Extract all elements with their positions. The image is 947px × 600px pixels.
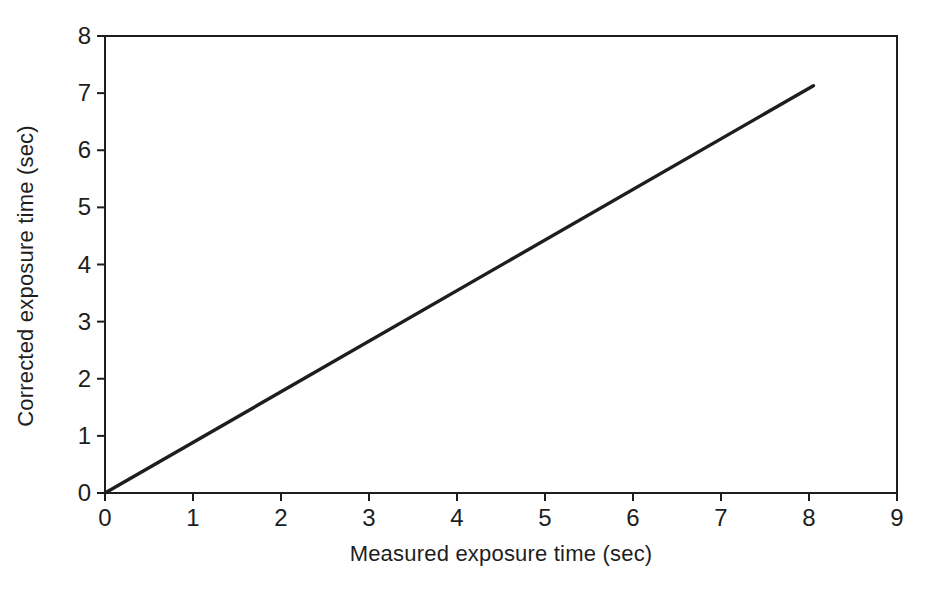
x-tick-label: 1 xyxy=(186,504,199,531)
x-tick-label: 8 xyxy=(802,504,815,531)
y-tick-label: 3 xyxy=(78,308,91,335)
y-tick-label: 6 xyxy=(78,136,91,163)
y-tick-label: 8 xyxy=(78,22,91,49)
x-tick-label: 5 xyxy=(538,504,551,531)
y-tick-label: 1 xyxy=(78,422,91,449)
data-line-exposure-correction-line xyxy=(105,86,813,493)
y-tick-label: 5 xyxy=(78,193,91,220)
x-tick-label: 3 xyxy=(362,504,375,531)
x-tick-label: 4 xyxy=(450,504,463,531)
y-tick-label: 4 xyxy=(78,251,91,278)
y-tick-label: 7 xyxy=(78,79,91,106)
x-tick-label: 6 xyxy=(626,504,639,531)
x-axis-label: Measured exposure time (sec) xyxy=(105,541,897,567)
y-axis-label: Corrected exposure time (sec) xyxy=(13,125,39,427)
x-tick-label: 2 xyxy=(274,504,287,531)
x-tick-label: 7 xyxy=(714,504,727,531)
y-tick-label: 2 xyxy=(78,365,91,392)
y-tick-label: 0 xyxy=(78,479,91,506)
x-tick-label: 0 xyxy=(98,504,111,531)
exposure-time-chart: 0123456789012345678 Measured exposure ti… xyxy=(0,0,947,600)
plot-area: 0123456789012345678 xyxy=(0,0,947,600)
x-tick-label: 9 xyxy=(890,504,903,531)
